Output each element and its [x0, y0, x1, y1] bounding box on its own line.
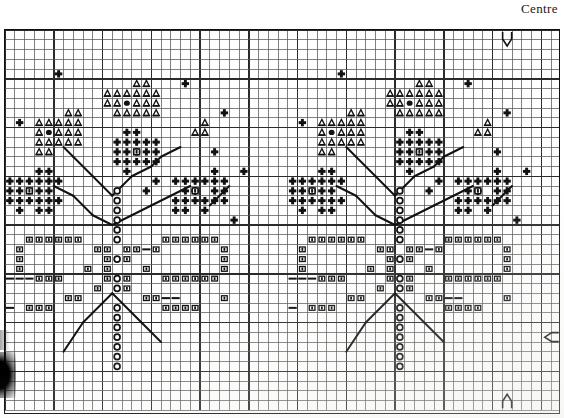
pattern-chart-page: Centre	[0, 0, 564, 418]
page-edge-smudge	[0, 352, 16, 398]
chart-grid	[4, 29, 560, 414]
page-edge-shadow	[0, 330, 10, 350]
centre-markers-layer	[5, 30, 559, 413]
centre-label: Centre	[521, 1, 558, 17]
